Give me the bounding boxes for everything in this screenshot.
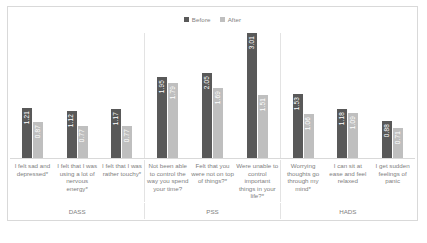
bar-value-before-1: 1.12 [68,114,74,127]
category-label-2: I felt that I was rather touchy* [100,160,145,202]
category-labels: I felt sad and depressed* I felt that I … [10,160,415,202]
bar-pair-1: 1.12 0.77 [55,33,100,158]
bar-value-before-3: 1.95 [159,80,165,93]
chart-legend: Before After [8,16,417,23]
bar-before-0[interactable]: 1.21 [22,108,32,158]
bar-after-5[interactable]: 1.51 [258,95,268,158]
chart-container: Before After 1.21 0.87 1.12 [7,6,418,221]
bar-after-7[interactable]: 1.09 [348,113,358,158]
bar-value-before-4: 2.05 [204,76,210,89]
bar-value-after-4: 1.69 [215,91,221,104]
bar-after-0[interactable]: 0.87 [33,122,43,158]
category-label-0: I felt sad and depressed* [10,160,55,202]
bar-value-after-0: 0.87 [35,125,41,138]
category-label-group-dass: I felt sad and depressed* I felt that I … [10,160,144,202]
category-label-6: Worrying thoughts go through my mind* [281,160,326,202]
category-label-group-pss: Not been able to control the way you spe… [144,160,279,202]
bar-value-before-2: 1.17 [113,112,119,125]
category-label-7: I can sit at ease and feel relaxed [325,160,370,202]
bar-pair-4: 2.05 1.69 [190,33,235,158]
legend-swatch-before [184,17,189,22]
bar-pair-8: 0.88 0.71 [370,33,415,158]
bar-value-after-3: 1.79 [170,86,176,99]
bar-after-6[interactable]: 1.06 [304,114,314,158]
bar-value-after-1: 0.77 [79,129,85,142]
category-label-8: I get sudden feelings of panic [370,160,415,202]
bar-group-pss: 1.95 1.79 2.05 1.69 3.01 [144,33,279,158]
bar-after-2[interactable]: 0.77 [122,126,132,158]
category-label-1: I felt that I was using a lot of nervous… [55,160,100,202]
bar-after-8[interactable]: 0.71 [393,128,403,158]
bar-before-3[interactable]: 1.95 [157,77,167,158]
bar-before-8[interactable]: 0.88 [382,121,392,158]
bar-after-1[interactable]: 0.77 [78,126,88,158]
legend-label-before: Before [192,16,211,23]
bar-value-before-7: 1.18 [339,112,345,125]
legend-entry-before[interactable]: Before [184,16,211,23]
bar-before-7[interactable]: 1.18 [337,109,347,158]
category-label-3: Not been able to control the way you spe… [145,160,190,202]
bar-pair-6: 1.53 1.06 [281,33,326,158]
bar-value-after-7: 1.09 [350,116,356,129]
bar-after-4[interactable]: 1.69 [213,88,223,158]
bar-value-before-8: 0.88 [384,124,390,137]
bar-value-before-5: 3.01 [249,36,255,49]
bar-after-3[interactable]: 1.79 [168,83,178,158]
x-axis-line [10,158,415,159]
bar-pair-7: 1.18 1.09 [325,33,370,158]
bar-before-6[interactable]: 1.53 [293,94,303,158]
bar-groups: 1.21 0.87 1.12 0.77 1.17 [10,33,415,158]
bar-before-1[interactable]: 1.12 [67,111,77,158]
bar-before-4[interactable]: 2.05 [202,73,212,158]
bar-value-after-2: 0.77 [124,129,130,142]
bar-pair-3: 1.95 1.79 [145,33,190,158]
group-label-pss: PSS [144,203,279,219]
legend-label-after: After [228,16,242,23]
bar-pair-2: 1.17 0.77 [100,33,145,158]
legend-swatch-after [220,17,225,22]
plot-area: 1.21 0.87 1.12 0.77 1.17 [8,33,417,158]
bar-group-dass: 1.21 0.87 1.12 0.77 1.17 [10,33,144,158]
bar-value-after-8: 0.71 [395,131,401,144]
bar-value-before-6: 1.53 [294,97,300,110]
category-label-4: Felt that you were not on top of things?… [190,160,235,202]
bar-value-before-0: 1.21 [24,111,30,124]
category-label-group-hads: Worrying thoughts go through my mind* I … [280,160,415,202]
bar-pair-5: 3.01 1.51 [235,33,280,158]
legend-entry-after[interactable]: After [220,16,242,23]
group-label-dass: DASS [10,203,144,219]
bar-value-after-5: 1.51 [260,98,266,111]
group-labels: DASS PSS HADS [10,203,415,219]
bar-pair-0: 1.21 0.87 [10,33,55,158]
bar-before-2[interactable]: 1.17 [111,109,121,158]
bar-value-after-6: 1.06 [305,117,311,130]
category-label-5: Were unable to control important things … [235,160,280,202]
bar-group-hads: 1.53 1.06 1.18 1.09 0.88 [280,33,415,158]
bar-before-5[interactable]: 3.01 [247,33,257,158]
group-label-hads: HADS [280,203,415,219]
